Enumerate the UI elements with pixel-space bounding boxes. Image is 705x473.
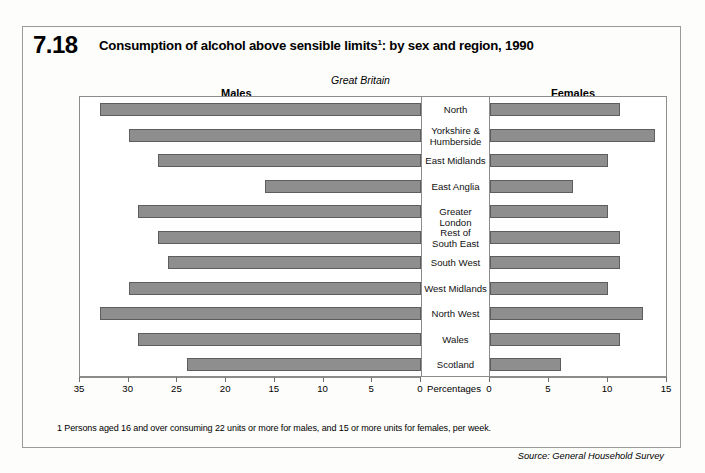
females-bar-row <box>490 276 667 302</box>
category-label-row: Wales <box>422 327 489 353</box>
bar-male <box>100 103 422 116</box>
category-label: South West <box>422 257 489 268</box>
bar-male <box>187 358 421 371</box>
axis-tick <box>176 377 177 382</box>
category-label: Wales <box>422 334 489 345</box>
males-bar-row <box>80 123 421 149</box>
males-bar-row <box>80 352 421 378</box>
figure-header: 7.18 Consumption of alcohol above sensib… <box>23 27 682 69</box>
axis-tick-label-male-30: 30 <box>122 383 133 394</box>
category-label: East Midlands <box>422 155 489 166</box>
axis-tick <box>420 377 421 382</box>
bar-female <box>490 307 643 320</box>
figure-footnote: 1 Persons aged 16 and over consuming 22 … <box>57 423 491 433</box>
bar-male <box>129 129 421 142</box>
axis-tick-label-female-10: 10 <box>602 383 613 394</box>
category-label-row: South West <box>422 250 489 276</box>
axis-tick-label-male-5: 5 <box>369 383 374 394</box>
category-label-row: East Anglia <box>422 174 489 200</box>
axis-tick <box>371 377 372 382</box>
category-label-row: Scotland <box>422 352 489 378</box>
bar-female <box>490 358 561 371</box>
bar-female <box>490 231 620 244</box>
bar-female <box>490 154 608 167</box>
males-bar-row <box>80 301 421 327</box>
females-bar-row <box>490 301 667 327</box>
bar-female <box>490 256 620 269</box>
category-labels-column: NorthYorkshire &HumbersideEast MidlandsE… <box>421 97 490 376</box>
bar-female <box>490 129 655 142</box>
category-label: North West <box>422 308 489 319</box>
females-bar-row <box>490 123 667 149</box>
category-label: East Anglia <box>422 181 489 192</box>
axis-tick-label-male-0: 0 <box>417 383 422 394</box>
males-bar-row <box>80 225 421 251</box>
axis-tick-label-female-5: 5 <box>545 383 550 394</box>
bar-male <box>158 231 421 244</box>
females-bars-column <box>490 97 667 376</box>
bar-male <box>138 333 421 346</box>
bar-female <box>490 333 620 346</box>
chart-axis: Percentages 35302520151050051015 <box>79 377 667 407</box>
axis-tick-label-male-35: 35 <box>74 383 85 394</box>
females-bar-row <box>490 97 667 123</box>
males-bar-row <box>80 276 421 302</box>
bar-male <box>138 205 421 218</box>
males-bar-row <box>80 327 421 353</box>
figure-frame: 7.18 Consumption of alcohol above sensib… <box>22 26 681 448</box>
category-label-row: Rest ofSouth East <box>422 225 489 251</box>
axis-tick-label-male-15: 15 <box>269 383 280 394</box>
axis-line-males <box>79 377 420 378</box>
bar-male <box>100 307 422 320</box>
axis-tick <box>489 377 490 382</box>
bar-female <box>490 180 573 193</box>
males-bar-row <box>80 174 421 200</box>
axis-tick <box>128 377 129 382</box>
figure-title: Consumption of alcohol above sensible li… <box>99 38 534 53</box>
males-bar-row <box>80 250 421 276</box>
bar-male <box>129 282 421 295</box>
axis-tick-label-male-25: 25 <box>171 383 182 394</box>
category-label-row: Yorkshire &Humberside <box>422 123 489 149</box>
axis-tick <box>548 377 549 382</box>
axis-tick <box>607 377 608 382</box>
category-label: Scotland <box>422 359 489 370</box>
bar-female <box>490 103 620 116</box>
males-bar-row <box>80 97 421 123</box>
axis-line-females <box>489 377 666 378</box>
category-label: North <box>422 104 489 115</box>
category-label-row: Greater London <box>422 199 489 225</box>
axis-tick <box>274 377 275 382</box>
category-label: Rest ofSouth East <box>422 227 489 249</box>
axis-tick-label-male-10: 10 <box>317 383 328 394</box>
bar-female <box>490 282 608 295</box>
females-bar-row <box>490 199 667 225</box>
figure-title-rest: : by sex and region, 1990 <box>382 38 534 53</box>
axis-tick <box>225 377 226 382</box>
axis-tick-label-female-0: 0 <box>486 383 491 394</box>
chart-plot-area: NorthYorkshire &HumbersideEast MidlandsE… <box>79 96 667 377</box>
category-label-row: East Midlands <box>422 148 489 174</box>
category-label: West Midlands <box>422 283 489 294</box>
females-bar-row <box>490 250 667 276</box>
females-bar-row <box>490 352 667 378</box>
category-label: Yorkshire &Humberside <box>422 125 489 147</box>
males-bar-row <box>80 148 421 174</box>
axis-tick-label-male-20: 20 <box>220 383 231 394</box>
bar-male <box>168 256 421 269</box>
category-label-row: North West <box>422 301 489 327</box>
bar-male <box>158 154 421 167</box>
axis-tick-label-female-15: 15 <box>661 383 672 394</box>
category-label-row: West Midlands <box>422 276 489 302</box>
males-bars-column <box>80 97 421 376</box>
females-bar-row <box>490 225 667 251</box>
axis-tick <box>666 377 667 382</box>
males-bar-row <box>80 199 421 225</box>
axis-tick <box>79 377 80 382</box>
bar-male <box>265 180 421 193</box>
category-label-row: North <box>422 97 489 123</box>
figure-title-main: Consumption of alcohol above sensible li… <box>99 38 377 53</box>
axis-tick <box>323 377 324 382</box>
females-bar-row <box>490 148 667 174</box>
figure-number: 7.18 <box>33 31 78 59</box>
